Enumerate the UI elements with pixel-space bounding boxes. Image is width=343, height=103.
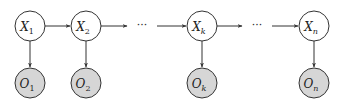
node-subscript: 2 — [85, 84, 90, 93]
observed-node-o1: O1 — [15, 68, 45, 98]
hidden-node-xk: Xk — [187, 11, 217, 41]
node-subscript: k — [201, 27, 206, 36]
observed-node-o2: O2 — [71, 68, 101, 98]
node-subscript: 1 — [29, 27, 34, 36]
ellipsis-1: ··· — [137, 19, 148, 32]
node-main-label: X — [191, 20, 201, 34]
hidden-node-x1: X1 — [15, 11, 45, 41]
node-main-label: X — [19, 20, 29, 34]
node-main-label: O — [76, 77, 86, 91]
observed-node-ok: Ok — [187, 68, 217, 98]
node-subscript: 1 — [29, 84, 34, 93]
node-subscript: n — [313, 27, 318, 36]
node-subscript: 2 — [85, 27, 90, 36]
hidden-node-x2: X2 — [71, 11, 101, 41]
observed-node-on: On — [299, 68, 329, 98]
emission-edges — [30, 41, 314, 67]
node-subscript: k — [201, 84, 206, 93]
node-subscript: n — [313, 84, 318, 93]
ellipsis-2: ··· — [252, 19, 263, 32]
node-main-label: X — [75, 20, 85, 34]
node-main-label: O — [192, 77, 202, 91]
node-main-label: O — [20, 77, 30, 91]
hidden-node-xn: Xn — [299, 11, 329, 41]
node-main-label: O — [304, 77, 314, 91]
node-main-label: X — [303, 20, 313, 34]
hmm-diagram: ··· ··· X1 X2 Xk Xn O1 O2 Ok On — [0, 0, 343, 103]
